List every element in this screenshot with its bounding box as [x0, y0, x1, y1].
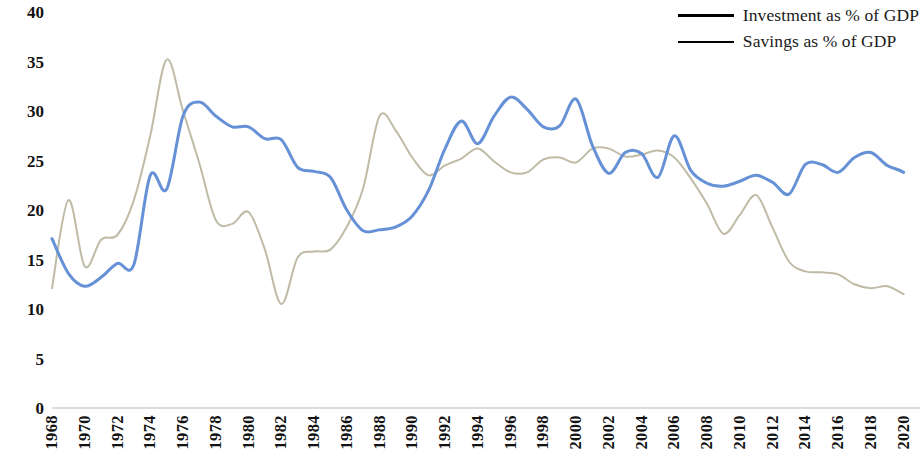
legend-item-investment: Investment as % of GDP — [678, 4, 919, 27]
legend-label-investment: Investment as % of GDP — [743, 5, 919, 26]
legend-label-savings: Savings as % of GDP — [743, 31, 897, 52]
legend-swatch-investment — [678, 14, 734, 17]
plot-area — [0, 0, 923, 471]
chart-container: Investment as % of GDP Savings as % of G… — [0, 0, 923, 471]
series-line-investment — [52, 97, 904, 286]
chart-legend: Investment as % of GDP Savings as % of G… — [678, 4, 919, 53]
legend-item-savings: Savings as % of GDP — [678, 30, 919, 53]
series-line-savings — [52, 59, 904, 304]
legend-swatch-savings — [678, 41, 734, 43]
